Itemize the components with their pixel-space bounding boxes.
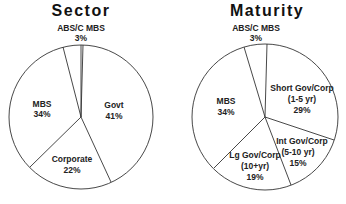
- sector-mbs-label: MBS: [33, 99, 52, 109]
- sector-corp-label: Corporate: [52, 154, 93, 164]
- maturity-lg-pct: 19%: [246, 172, 263, 182]
- sector-pie: [9, 45, 153, 189]
- maturity-int-label: Int Gov/Corp: [276, 136, 327, 146]
- sector-mbs-pct: 34%: [33, 109, 50, 119]
- sector-govt-pct: 41%: [105, 111, 122, 121]
- maturity-lg-label: Lg Gov/Corp: [229, 150, 280, 160]
- pie-charts: ABS/C MBS 3% MBS 34% Govt 41% Corporate …: [0, 0, 346, 204]
- sector-abs-label: ABS/C MBS: [57, 23, 105, 33]
- maturity-int-pct: 15%: [289, 158, 306, 168]
- maturity-int-sub: (5-10 yr): [281, 147, 314, 157]
- maturity-abs-pct: 3%: [250, 33, 263, 43]
- maturity-short-pct: 29%: [293, 105, 310, 115]
- maturity-mbs-label: MBS: [217, 96, 236, 106]
- maturity-abs-label: ABS/C MBS: [232, 23, 280, 33]
- maturity-short-label: Short Gov/Corp: [270, 83, 333, 93]
- sector-abs-pct: 3%: [75, 33, 88, 43]
- sector-govt-label: Govt: [104, 100, 124, 110]
- sector-corp-pct: 22%: [63, 165, 80, 175]
- maturity-lg-sub: (10+yr): [241, 161, 269, 171]
- maturity-short-sub: (1-5 yr): [288, 94, 317, 104]
- maturity-mbs-pct: 34%: [217, 107, 234, 117]
